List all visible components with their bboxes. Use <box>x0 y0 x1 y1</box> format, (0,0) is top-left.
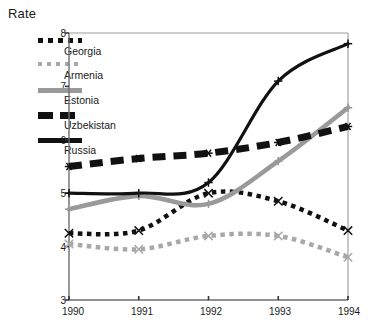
series-line-armenia <box>69 234 348 258</box>
rate-line-chart: Rate 8 7 6 5 4 3 1990 1991 1992 1993 199… <box>0 0 380 334</box>
axis-ticks <box>65 33 348 300</box>
data-point-russia-1990 <box>65 189 73 197</box>
series-line-russia <box>69 44 348 195</box>
series-line-uzbekistan <box>69 126 348 166</box>
axis-lines <box>69 33 348 300</box>
data-marker-layer <box>65 39 352 261</box>
data-series-layer <box>69 44 348 258</box>
plot-area <box>0 0 380 334</box>
